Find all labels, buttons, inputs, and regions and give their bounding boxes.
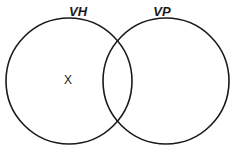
set-circle-vp (103, 18, 229, 144)
venn-diagram-figure: VH VP X (0, 0, 232, 152)
element-mark-x: X (64, 73, 72, 87)
venn-diagram-canvas: VH VP X (0, 0, 232, 152)
set-label-vh: VH (69, 4, 88, 19)
set-label-vp: VP (153, 4, 171, 19)
